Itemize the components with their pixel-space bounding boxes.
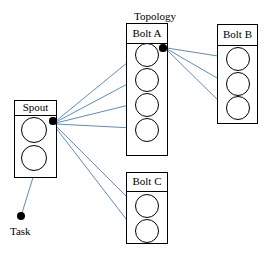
executor-slot-bolt-a-3[interactable] [135, 93, 159, 117]
edge-bolt-a-port-to-bolt-b-slot-2 [167, 49, 224, 82]
output-port-bolt-a[interactable] [159, 44, 166, 51]
node-label-bolt-c: Bolt C [127, 176, 167, 187]
edge-spout-port-to-bolt-c-slot-2 [56, 128, 133, 228]
edge-bolt-a-port-to-bolt-b-slot-3 [167, 50, 224, 106]
executor-slot-bolt-c-1[interactable] [135, 194, 159, 218]
edge-spout-port-to-bolt-a-slot-3 [56, 104, 133, 123]
node-label-spout: Spout [15, 102, 56, 113]
edge-spout-port-to-bolt-a-slot-2 [56, 81, 133, 122]
executor-slot-bolt-a-2[interactable] [135, 68, 159, 92]
executor-slot-bolt-c-2[interactable] [135, 219, 159, 243]
node-label-bolt-a: Bolt A [127, 28, 167, 39]
topology-title: Topology [124, 11, 186, 22]
edge-spout-port-to-bolt-c-slot-1 [56, 126, 133, 203]
node-label-bolt-b: Bolt B [218, 29, 257, 40]
executor-slot-bolt-b-2[interactable] [226, 72, 250, 96]
output-port-spout[interactable] [49, 117, 56, 124]
executor-slot-bolt-b-3[interactable] [226, 96, 250, 120]
node-divider-bolt-c [127, 191, 167, 192]
executor-slot-bolt-b-1[interactable] [226, 47, 250, 71]
executor-slot-spout-1[interactable] [21, 117, 47, 143]
edge-bolt-a-port-to-bolt-b-slot-1 [167, 48, 224, 57]
node-divider-spout [15, 115, 56, 116]
executor-slot-spout-2[interactable] [21, 145, 47, 171]
executor-slot-bolt-a-1[interactable] [135, 43, 159, 67]
diagram-canvas: Topology SpoutBolt ABolt BBolt C Task [0, 0, 271, 256]
executor-slot-bolt-a-4[interactable] [135, 118, 159, 142]
node-divider-bolt-b [218, 45, 257, 46]
task-label: Task [10, 226, 31, 237]
edge-spout-port-to-bolt-a-slot-1 [56, 58, 133, 121]
edge-spout-port-to-bolt-a-slot-4 [56, 124, 133, 128]
